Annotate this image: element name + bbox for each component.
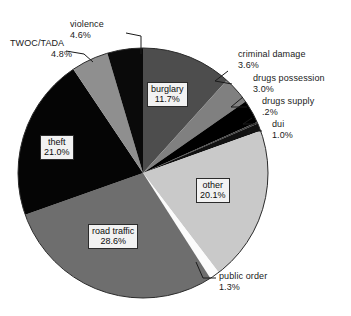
label-dui-pct: 1.0%	[272, 130, 293, 141]
label-violence-pct: 4.6%	[70, 30, 104, 41]
label-drugs-possession-pct: 3.0%	[253, 84, 325, 95]
label-drugs-possession: drugs possession 3.0%	[253, 73, 325, 94]
label-burglary: burglary 11.7%	[147, 82, 188, 107]
label-twoc-tada-pct: 4.8%	[10, 49, 72, 60]
label-other-name: other	[203, 180, 224, 190]
label-road-traffic-pct: 28.6%	[92, 236, 134, 246]
label-theft: theft 21.0%	[40, 135, 74, 160]
label-theft-name: theft	[48, 137, 66, 147]
label-violence-name: violence	[70, 19, 104, 29]
label-road-traffic: road traffic 28.6%	[88, 224, 138, 249]
label-criminal-damage-pct: 3.6%	[238, 60, 306, 71]
label-twoc-tada: TWOC/TADA 4.8%	[10, 38, 72, 59]
label-burglary-name: burglary	[151, 84, 184, 94]
label-drugs-supply-name: drugs supply	[262, 96, 314, 106]
pie-slices	[18, 48, 268, 298]
label-twoc-tada-name: TWOC/TADA	[10, 38, 64, 48]
label-public-order-name: public order	[219, 271, 267, 281]
label-other-pct: 20.1%	[200, 190, 226, 200]
label-road-traffic-name: road traffic	[92, 226, 134, 236]
label-violence: violence 4.6%	[70, 19, 104, 40]
label-criminal-damage: criminal damage 3.6%	[238, 49, 306, 70]
label-drugs-possession-name: drugs possession	[253, 73, 325, 83]
pie-chart-page: violence 4.6% TWOC/TADA 4.8% criminal da…	[0, 0, 351, 316]
label-public-order: public order 1.3%	[219, 271, 267, 292]
label-drugs-supply-pct: .2%	[262, 107, 314, 118]
label-burglary-pct: 11.7%	[151, 94, 184, 104]
label-theft-pct: 21.0%	[44, 147, 70, 157]
label-dui-name: dui	[272, 119, 284, 129]
label-other: other 20.1%	[196, 178, 230, 203]
label-dui: dui 1.0%	[272, 119, 293, 140]
label-criminal-damage-name: criminal damage	[238, 49, 306, 59]
label-drugs-supply: drugs supply .2%	[262, 96, 314, 117]
label-public-order-pct: 1.3%	[219, 282, 267, 293]
